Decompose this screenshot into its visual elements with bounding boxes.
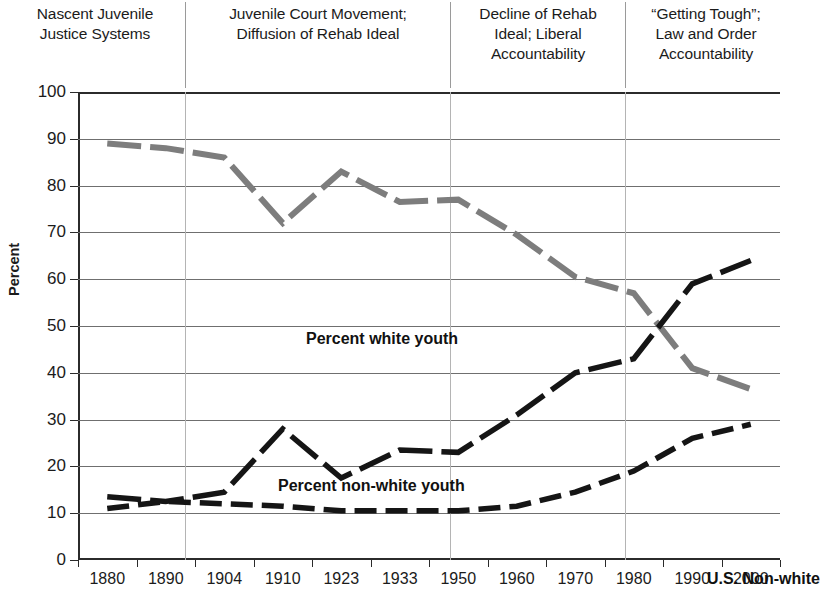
y-tick xyxy=(70,513,78,514)
x-tick xyxy=(722,560,723,567)
y-tick xyxy=(70,279,78,280)
y-tick-label: 80 xyxy=(47,176,66,196)
x-tick-label: 1960 xyxy=(499,570,535,588)
series-label: Percent non-white youth xyxy=(278,477,465,495)
era-divider xyxy=(625,2,626,88)
y-tick-label: 60 xyxy=(47,269,66,289)
y-tick xyxy=(70,92,78,93)
era-line: Juvenile Court Movement; xyxy=(190,4,446,24)
y-tick xyxy=(70,186,78,187)
era-line: Law and Order xyxy=(630,24,782,44)
x-tick xyxy=(195,560,196,567)
y-tick-label: 20 xyxy=(47,456,66,476)
x-tick xyxy=(663,560,664,567)
y-tick-label: 90 xyxy=(47,129,66,149)
y-tick-label: 100 xyxy=(38,82,66,102)
y-tick-label: 30 xyxy=(47,410,66,430)
series-line xyxy=(107,260,751,501)
x-tick-label: 1970 xyxy=(557,570,593,588)
era-cell-2: Decline of Rehab Ideal; Liberal Accounta… xyxy=(454,4,622,64)
series-label: Percent white youth xyxy=(306,330,458,348)
x-tick-label: 1950 xyxy=(440,570,476,588)
x-tick-label: 1990 xyxy=(674,570,710,588)
era-line: Ideal; Liberal xyxy=(454,24,622,44)
era-line: Decline of Rehab xyxy=(454,4,622,24)
era-header-band: Nascent Juvenile Justice Systems Juvenil… xyxy=(0,0,788,88)
x-tick xyxy=(78,560,79,567)
series-label: U.S. Non-white xyxy=(707,570,820,588)
era-line: Justice Systems xyxy=(8,24,182,44)
era-line: Nascent Juvenile xyxy=(8,4,182,24)
x-tick xyxy=(546,560,547,567)
plot-area: 0102030405060708090100 18801890190419101… xyxy=(78,92,780,560)
y-axis-title: Percent xyxy=(6,243,22,296)
y-tick xyxy=(70,139,78,140)
y-tick xyxy=(70,420,78,421)
y-tick xyxy=(70,326,78,327)
y-tick xyxy=(70,232,78,233)
x-tick-label: 1890 xyxy=(148,570,184,588)
x-tick xyxy=(488,560,489,567)
era-line: Accountability xyxy=(630,44,782,64)
era-cell-1: Juvenile Court Movement; Diffusion of Re… xyxy=(190,4,446,44)
era-line: Diffusion of Rehab Ideal xyxy=(190,24,446,44)
x-tick xyxy=(605,560,606,567)
era-divider xyxy=(185,2,186,88)
y-tick-label: 10 xyxy=(47,503,66,523)
series-line xyxy=(107,143,751,389)
y-tick-label: 0 xyxy=(57,550,66,570)
x-tick-label: 1910 xyxy=(265,570,301,588)
x-tick xyxy=(429,560,430,567)
y-tick xyxy=(70,466,78,467)
y-tick xyxy=(70,560,78,561)
era-line: “Getting Tough”; xyxy=(630,4,782,24)
era-divider xyxy=(450,2,451,88)
era-cell-0: Nascent Juvenile Justice Systems xyxy=(8,4,182,44)
x-tick-label: 1980 xyxy=(616,570,652,588)
x-tick xyxy=(137,560,138,567)
x-tick-label: 1933 xyxy=(382,570,418,588)
y-tick xyxy=(70,373,78,374)
y-tick-label: 50 xyxy=(47,316,66,336)
x-tick-label: 1880 xyxy=(89,570,125,588)
era-line: Accountability xyxy=(454,44,622,64)
x-tick xyxy=(312,560,313,567)
x-tick xyxy=(254,560,255,567)
x-tick xyxy=(371,560,372,567)
y-tick-label: 70 xyxy=(47,222,66,242)
x-tick-label: 1904 xyxy=(206,570,242,588)
x-tick xyxy=(780,560,781,567)
x-tick-label: 1923 xyxy=(323,570,359,588)
era-cell-3: “Getting Tough”; Law and Order Accountab… xyxy=(630,4,782,64)
y-tick-label: 40 xyxy=(47,363,66,383)
